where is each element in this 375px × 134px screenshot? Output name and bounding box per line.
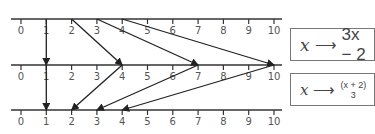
number-line-3: 012345678910 (11, 110, 282, 127)
tick-label: 9 (246, 25, 252, 36)
tick-label: 6 (170, 116, 176, 127)
inverse-rule-box: x ⟶ (x + 2) 3 (290, 73, 375, 106)
tick-label: 7 (195, 71, 201, 82)
tick-label: 0 (18, 25, 24, 36)
tick-label: 2 (68, 71, 74, 82)
tick-label: 4 (119, 116, 125, 127)
fraction-numerator: (x + 2) (340, 80, 366, 90)
number-line-2: 012345678910 (11, 65, 282, 82)
tick-label: 8 (220, 116, 226, 127)
tick-label: 8 (220, 25, 226, 36)
number-line-1: 012345678910 (11, 19, 282, 36)
tick-label: 7 (195, 25, 201, 36)
forward-rule-box: x ⟶ 3x − 2 (290, 28, 375, 61)
forward-rule-expression: 3x − 2 (342, 25, 374, 65)
fraction-denominator: 3 (351, 90, 356, 100)
tick-label: 0 (18, 116, 24, 127)
tick-label: 0 (18, 71, 24, 82)
tick-label: 4 (119, 71, 125, 82)
inverse-rule-fraction: (x + 2) 3 (340, 80, 366, 100)
tick-label: 10 (268, 71, 281, 82)
maps-to-arrow-icon: ⟶ (313, 81, 335, 99)
maps-to-arrow-icon: ⟶ (315, 36, 337, 54)
tick-label: 9 (246, 116, 252, 127)
tick-label: 2 (68, 116, 74, 127)
rule-variable: x (300, 81, 308, 99)
tick-label: 10 (268, 25, 281, 36)
tick-label: 5 (144, 116, 150, 127)
tick-label: 2 (68, 25, 74, 36)
tick-label: 10 (268, 116, 281, 127)
tick-label: 7 (195, 116, 201, 127)
tick-label: 3 (94, 25, 100, 36)
tick-label: 3 (94, 71, 100, 82)
tick-label: 3 (94, 116, 100, 127)
rule-variable: x (300, 35, 310, 55)
tick-label: 1 (43, 116, 49, 127)
tick-label: 5 (144, 71, 150, 82)
